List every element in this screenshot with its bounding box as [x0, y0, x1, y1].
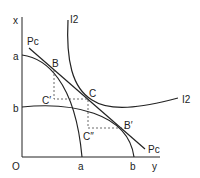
y-axis-label: y — [152, 161, 157, 172]
point-c-double-prime-label: C″ — [83, 131, 94, 142]
origin-label: O — [12, 161, 20, 172]
indifference-curve-i2 — [68, 20, 178, 107]
point-b-prime-label: B′ — [124, 120, 133, 131]
label-i2-top: I2 — [70, 14, 79, 25]
point-c-prime-label: C′ — [42, 95, 51, 106]
point-b-label: B — [52, 58, 59, 69]
x-axis-label: x — [13, 15, 18, 26]
label-b-horizontal: b — [130, 161, 136, 172]
label-pc-start: Pc — [27, 36, 39, 47]
point-c-label: C — [89, 88, 96, 99]
label-b-vertical: b — [13, 103, 19, 114]
label-a-vertical: a — [13, 51, 19, 62]
label-pc-end: Pc — [148, 144, 160, 155]
label-a-horizontal: a — [78, 161, 84, 172]
label-i2-right: I2 — [182, 94, 191, 105]
trade-diagram: x O y a a b b Pc Pc I2 I2 B C C′ C″ B′ — [0, 0, 200, 178]
